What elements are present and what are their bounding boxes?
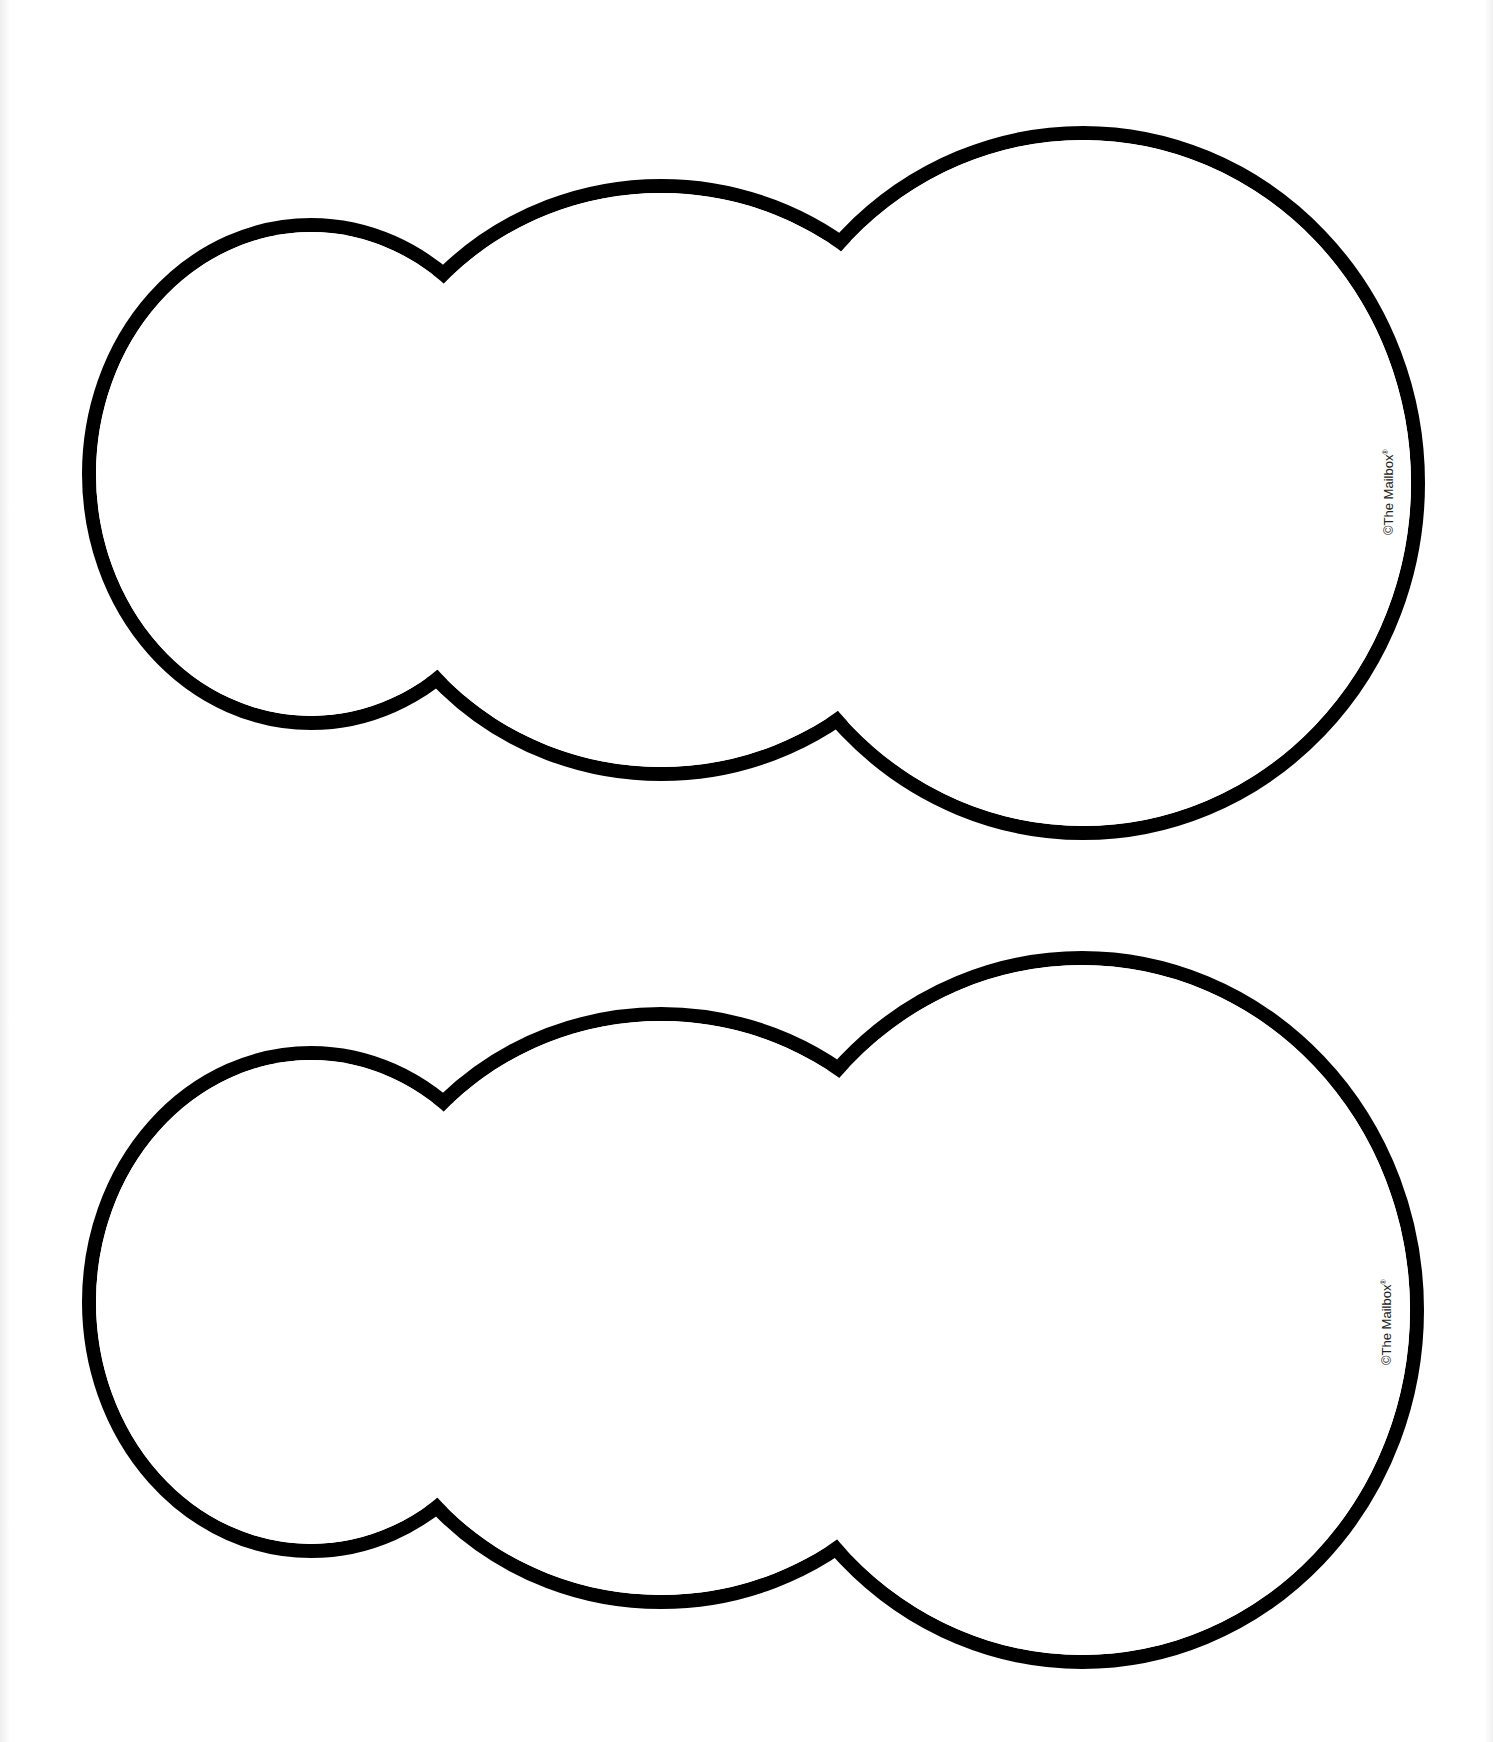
copyright-label-top: ©The Mailbox® xyxy=(1381,449,1396,535)
copyright-text: ©The Mailbox xyxy=(1379,1285,1394,1365)
registered-mark: ® xyxy=(1380,1279,1387,1284)
snowman-outline-top xyxy=(89,133,1418,833)
copyright-label-bottom: ©The Mailbox® xyxy=(1379,1279,1394,1365)
snowman-outline-bottom xyxy=(89,958,1417,1662)
copyright-text: ©The Mailbox xyxy=(1381,455,1396,535)
template-canvas xyxy=(0,0,1493,1742)
registered-mark: ® xyxy=(1382,449,1389,454)
